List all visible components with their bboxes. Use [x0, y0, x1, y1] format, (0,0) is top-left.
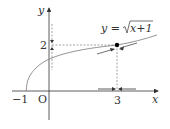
arrow-right-icon	[112, 87, 116, 91]
limit-point	[115, 43, 119, 47]
arrow-icon	[119, 47, 124, 51]
arrow-down-icon	[50, 40, 54, 43]
sqrt-function-graph: y x O −1 3 2 y = x+1	[0, 0, 170, 129]
arrow-up-icon	[50, 47, 54, 50]
arrow-left-icon	[118, 87, 122, 91]
x-tick-3: 3	[114, 94, 121, 107]
function-label-radicand: x+1	[130, 22, 152, 35]
x-tick-neg1: −1	[12, 93, 28, 106]
function-label-prefix: y =	[100, 22, 120, 35]
origin-label: O	[38, 93, 47, 106]
y-axis-label: y	[37, 4, 45, 17]
arrow-icon	[110, 48, 115, 52]
x-axis-label: x	[152, 93, 159, 106]
y-tick-2: 2	[40, 39, 47, 52]
